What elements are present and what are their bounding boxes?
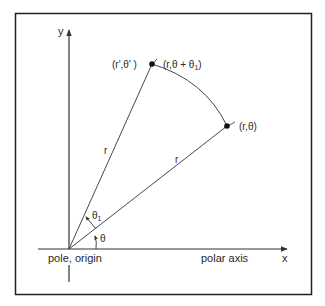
polar-axis-label: polar axis <box>201 252 249 264</box>
theta-label: θ <box>100 233 106 244</box>
r-label-rotated: r <box>104 145 108 156</box>
y-axis-label: y <box>58 25 64 37</box>
polar-coordinates-diagram: y x pole, origin polar axis (r',θ' ) (r,… <box>0 0 325 306</box>
original-point <box>224 123 230 129</box>
rotated-point-label-right: (r,θ + θ1) <box>163 59 202 71</box>
rotation-arc <box>152 64 227 126</box>
ray-rotated <box>69 64 152 249</box>
rotated-point-label-left: (r',θ' ) <box>112 59 137 70</box>
x-axis-label: x <box>282 252 288 264</box>
origin-label: pole, origin <box>48 252 102 264</box>
ray-original <box>69 126 227 249</box>
theta1-label: θ1 <box>92 210 102 222</box>
original-point-label: (r,θ) <box>239 121 257 132</box>
theta-angle-arc <box>95 236 96 249</box>
rotated-point <box>149 61 155 67</box>
